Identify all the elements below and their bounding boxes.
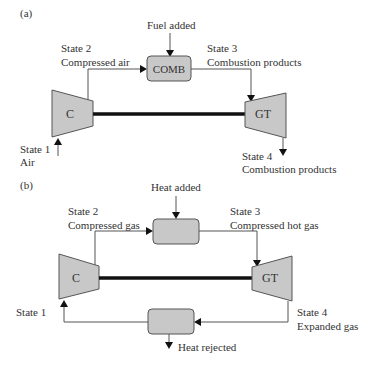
brayton-cycle-figure: (a) Fuel added State 2 Compressed air St… [0,0,366,373]
arrow-into-heater-icon [146,227,153,235]
state2-desc-b: Compressed gas [68,219,140,231]
state1-desc-a: Air [20,156,35,168]
diagram-b-closed-cycle: (b) Heat added State 2 Compressed gas St… [16,179,358,353]
turbine-label-a: GT [255,107,272,121]
fuel-added-label: Fuel added [147,19,196,31]
flow-line-comb-to-gt [191,69,251,96]
flow-line-gt-to-cooler [201,301,288,322]
heat-rejection-box [148,309,194,334]
heat-rejected-label: Heat rejected [178,341,237,353]
heat-added-label: Heat added [151,181,201,193]
heat-added-arrow-icon [172,212,180,219]
outlet-arrow-icon [279,149,287,156]
flow-line-heater-to-gt [199,231,257,261]
heat-rejected-arrow-icon [165,342,173,349]
state4-desc-a: Combustion products [242,163,336,175]
inlet-arrow-icon [54,138,62,145]
diagram-a-open-cycle: (a) Fuel added State 2 Compressed air St… [20,7,336,175]
turbine-label-b: GT [262,271,279,285]
combustor-label: COMB [153,63,185,75]
state3-title-a: State 3 [207,42,238,54]
compressor-label-b: C [72,271,80,285]
state3-desc-b: Compressed hot gas [230,219,319,231]
state1-title-b: State 1 [16,306,46,318]
state2-title-a: State 2 [61,42,91,54]
state4-title-b: State 4 [297,306,328,318]
arrow-into-comb-icon [140,65,147,73]
state4-title-a: State 4 [242,150,273,162]
heat-addition-box [153,219,199,244]
arrow-into-cooler-icon [194,318,201,326]
compressor-label-a: C [66,107,74,121]
flow-line-c-to-heater [95,231,147,265]
flow-line-cooler-to-c [64,306,148,322]
state1-title-a: State 1 [20,143,50,155]
panel-label-b: (b) [20,179,33,192]
flow-line-c-to-comb [88,69,141,100]
state4-desc-b: Expanded gas [297,320,358,332]
panel-label-a: (a) [20,7,33,20]
state3-desc-a: Combustion products [207,56,301,68]
state2-title-b: State 2 [68,205,98,217]
state2-desc-a: Compressed air [61,56,130,68]
arrow-into-compressor-icon [60,300,68,307]
state3-title-b: State 3 [230,205,261,217]
